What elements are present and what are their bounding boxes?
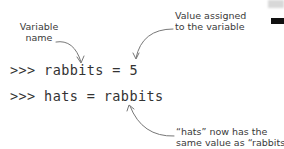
value-assigned-arrow-icon — [136, 29, 173, 58]
hats-note-arrow-icon — [130, 106, 174, 136]
variable-name-arrow-icon — [56, 42, 81, 62]
annotation-arrows — [0, 0, 284, 149]
